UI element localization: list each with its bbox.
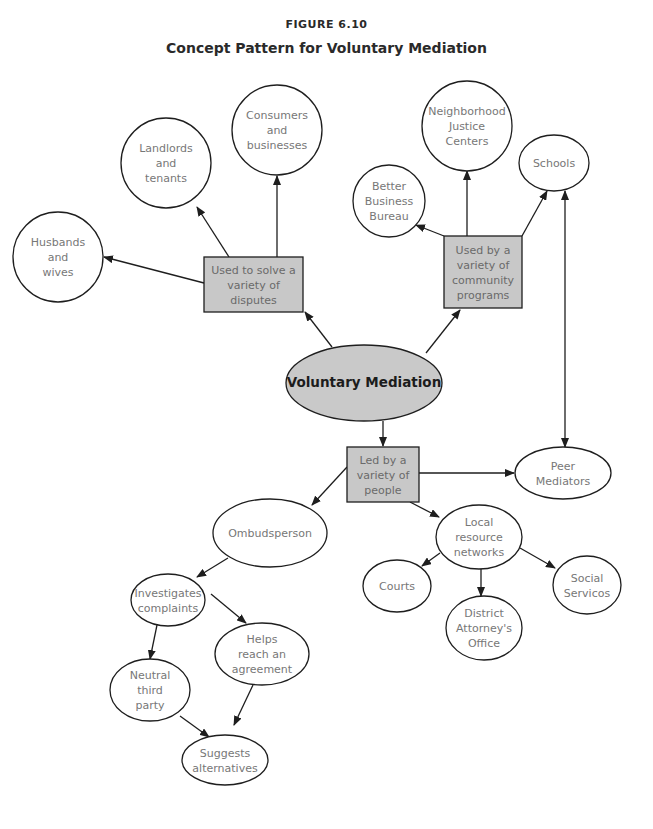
- node-label: Peer: [551, 460, 576, 473]
- arrow-connector: [197, 207, 229, 257]
- arrow-connector: [211, 594, 246, 623]
- node-label: disputes: [230, 294, 277, 307]
- node-label: Servicos: [564, 587, 611, 600]
- node-label: variety of: [357, 469, 411, 482]
- arrow-connector: [305, 312, 332, 347]
- arrow-connector: [426, 310, 460, 353]
- arrow-connector: [150, 625, 157, 659]
- node-label: Neighborhood: [428, 105, 505, 118]
- node-led: Led by avariety ofpeople: [347, 447, 419, 502]
- node-label: reach an: [238, 648, 286, 661]
- node-center: Voluntary Mediation: [286, 345, 442, 421]
- node-label: programs: [457, 289, 510, 302]
- node-label: community: [452, 274, 515, 287]
- node-label: Centers: [446, 135, 489, 148]
- node-neutral: Neutralthirdparty: [110, 659, 190, 721]
- node-label: Justice: [448, 120, 485, 133]
- node-label: Business: [365, 195, 414, 208]
- node-label: Consumers: [246, 109, 308, 122]
- node-label: and: [267, 124, 288, 137]
- node-label: Husbands: [31, 236, 86, 249]
- node-label: people: [364, 484, 402, 497]
- node-disputes: Used to solve avariety ofdisputes: [204, 257, 303, 312]
- node-label: Local: [465, 516, 494, 529]
- node-da: DistrictAttorney'sOffice: [446, 596, 522, 660]
- node-bbb: BetterBusinessBureau: [353, 165, 425, 237]
- node-label: third: [137, 684, 163, 697]
- node-label: and: [156, 157, 177, 170]
- node-label: agreement: [232, 663, 293, 676]
- node-local: Localresourcenetworks: [436, 505, 522, 569]
- node-label: Office: [468, 637, 500, 650]
- node-shape: [515, 447, 611, 499]
- node-label: alternatives: [192, 762, 258, 775]
- node-courts: Courts: [363, 560, 431, 612]
- node-label: Bureau: [369, 210, 408, 223]
- node-label: Social: [571, 572, 604, 585]
- node-husbands: Husbandsandwives: [13, 212, 103, 302]
- arrow-connector: [104, 257, 204, 283]
- node-label: and: [48, 251, 69, 264]
- arrow-connector: [522, 191, 547, 236]
- node-label: Investigates: [134, 587, 201, 600]
- node-nj: NeighborhoodJusticeCenters: [422, 81, 512, 171]
- arrow-connector: [520, 548, 555, 568]
- node-label: Ombudsperson: [228, 527, 312, 540]
- node-label: party: [135, 699, 165, 712]
- node-social: SocialServicos: [553, 556, 621, 614]
- node-label: variety of: [227, 279, 281, 292]
- node-label: tenants: [145, 172, 187, 185]
- node-label: variety of: [457, 259, 511, 272]
- node-label: Used to solve a: [211, 264, 296, 277]
- arrow-connector: [416, 225, 444, 236]
- node-suggests: Suggestsalternatives: [182, 735, 268, 785]
- nodes-layer: Voluntary MediationUsed to solve avariet…: [13, 81, 621, 785]
- node-label: District: [464, 607, 504, 620]
- node-consumers: Consumersandbusinesses: [232, 85, 322, 175]
- arrow-connector: [180, 716, 209, 737]
- node-peer: PeerMediators: [515, 447, 611, 499]
- node-shape: [182, 735, 268, 785]
- node-community: Used by avariety ofcommunityprograms: [444, 236, 522, 308]
- node-shape: [553, 556, 621, 614]
- arrow-connector: [234, 685, 253, 725]
- node-investigates: Investigatescomplaints: [131, 574, 205, 626]
- node-label: Used by a: [456, 244, 511, 257]
- node-ombuds: Ombudsperson: [213, 499, 327, 567]
- node-label: complaints: [138, 602, 199, 615]
- node-label: Voluntary Mediation: [287, 374, 442, 390]
- node-label: Attorney's: [456, 622, 512, 635]
- node-label: Suggests: [200, 747, 251, 760]
- node-label: Courts: [379, 580, 415, 593]
- node-label: networks: [454, 546, 505, 559]
- node-label: wives: [42, 266, 73, 279]
- arrow-connector: [312, 467, 347, 505]
- node-label: resource: [455, 531, 503, 544]
- arrow-connector: [197, 558, 228, 577]
- node-label: Neutral: [130, 669, 171, 682]
- arrow-connector: [410, 502, 439, 517]
- node-label: Mediators: [536, 475, 591, 488]
- node-label: Led by a: [360, 454, 407, 467]
- node-helps: Helpsreach anagreement: [215, 623, 309, 685]
- node-label: Helps: [247, 633, 278, 646]
- node-label: Better: [372, 180, 407, 193]
- node-schools: Schools: [519, 135, 589, 191]
- concept-diagram: Voluntary MediationUsed to solve avariet…: [0, 0, 653, 829]
- node-label: Schools: [533, 157, 576, 170]
- node-label: Landlords: [139, 142, 193, 155]
- arrow-connector: [422, 553, 440, 566]
- node-label: businesses: [247, 139, 308, 152]
- node-landlords: Landlordsandtenants: [121, 118, 211, 208]
- node-shape: [131, 574, 205, 626]
